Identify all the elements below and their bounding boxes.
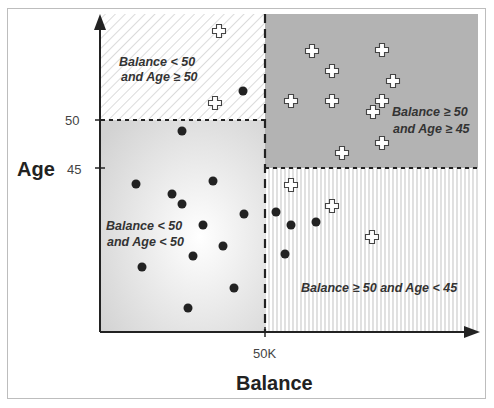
region-label-high-bal-low-age: Balance ≥ 50 and Age < 45 (301, 281, 458, 295)
region-label-low-bal-high-age-2: and Age ≥ 50 (121, 70, 198, 84)
y-tick-50: 50 (65, 113, 79, 128)
region-high-bal-low-age (265, 168, 478, 332)
y-tick-45: 45 (67, 162, 81, 177)
y-axis-label: Age (17, 158, 55, 180)
region-label-low-bal-high-age-1: Balance < 50 (119, 55, 195, 69)
region-label-high-bal-high-age-2: and Age ≥ 45 (393, 122, 471, 136)
region-label-low-bal-low-age-2: and Age < 50 (107, 235, 184, 249)
x-tick-50k: 50K (253, 346, 276, 361)
region-label-high-bal-high-age-1: Balance ≥ 50 (392, 105, 468, 119)
x-axis-label: Balance (236, 372, 313, 394)
region-label-low-bal-low-age-1: Balance < 50 (106, 219, 182, 233)
region-high-bal-high-age (265, 14, 478, 168)
decision-partition-diagram: Balance < 50 and Age ≥ 50 Balance < 50 a… (0, 0, 494, 408)
